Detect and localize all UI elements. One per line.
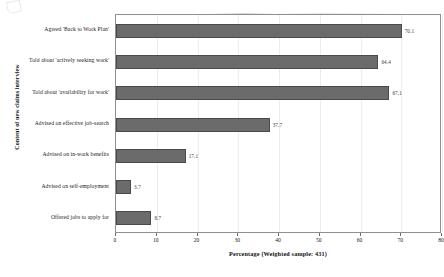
category-label: Agreed 'Back to Work Plan' [44,26,109,33]
bar-row: 67.1 [116,86,440,100]
bar-series: 70.164.467.137.717.13.78.7 [116,15,440,232]
x-axis-tick-mark [400,233,401,236]
bar-row: 17.1 [116,149,440,163]
bar-row: 64.4 [116,55,440,69]
x-axis-tick-label: 50 [316,237,322,243]
category-label: Told about 'availability for work' [32,89,109,96]
bar-value-label: 70.1 [405,28,414,34]
bar [116,24,402,38]
bar [116,118,270,132]
bar-row: 37.7 [116,118,440,132]
category-label: Offered jobs to apply for [51,214,109,221]
x-axis-tick-mark [156,233,157,236]
bar-row: 3.7 [116,180,440,194]
bar-value-label: 67.1 [392,90,401,96]
x-axis-tick-label: 0 [114,237,117,243]
x-axis-tick-mark [441,233,442,236]
bar [116,149,186,163]
x-axis-tick-label: 60 [357,237,363,243]
x-axis-tick-mark [197,233,198,236]
bar-value-label: 8.7 [154,215,161,221]
category-label: Advised on self-employment [41,183,109,190]
x-axis-tick-label: 30 [234,237,240,243]
bar [116,55,378,69]
category-label: Advised on in-work benefits [42,151,109,158]
plot-area: 70.164.467.137.717.13.78.7 [115,14,441,233]
x-axis-tick-mark [115,233,116,236]
bar-value-label: 64.4 [381,59,390,65]
x-axis-tick-label: 10 [153,237,159,243]
bar-value-label: 3.7 [134,184,141,190]
scan-artifact-corner [6,0,22,14]
category-label: Told about 'actively seeking work' [29,57,109,64]
y-axis-category-labels: Agreed 'Back to Work Plan'Told about 'ac… [0,14,112,233]
bar [116,211,151,225]
bar-row: 8.7 [116,211,440,225]
x-axis-tick-mark [319,233,320,236]
bar [116,180,131,194]
x-axis-tick-mark [237,233,238,236]
bar-chart-figure: Content of new claims interview Agreed '… [0,0,444,277]
x-axis-tick-label: 80 [438,237,444,243]
bar [116,86,389,100]
x-axis-tick-label: 20 [194,237,200,243]
x-axis-title: Percentage (Weighted sample: 431) [115,250,441,257]
bar-value-label: 37.7 [273,122,282,128]
bar-row: 70.1 [116,24,440,38]
x-axis-tick-mark [278,233,279,236]
gridline [442,15,443,232]
x-axis-tick-mark [360,233,361,236]
category-label: Advised on effective job-search [35,120,109,127]
bar-value-label: 17.1 [189,153,198,159]
x-axis-tick-label: 40 [275,237,281,243]
x-axis: 01020304050607080 [115,233,441,247]
x-axis-tick-label: 70 [397,237,403,243]
